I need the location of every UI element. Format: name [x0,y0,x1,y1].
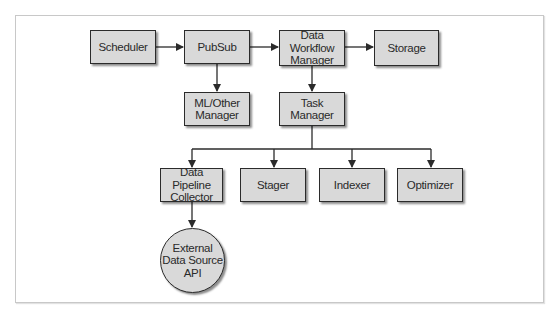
node-scheduler: Scheduler [90,30,156,64]
node-label: Optimizer [407,179,454,192]
node-ml-other-manager: ML/Other Manager [184,92,250,126]
node-label: Storage [387,42,425,55]
node-label: Task Manager [290,97,333,122]
node-pubsub: PubSub [184,30,250,64]
node-external-data-source-api: External Data Source API [160,228,225,293]
node-stager: Stager [240,168,306,202]
node-data-workflow-manager: Data Workflow Manager [279,30,345,66]
diagram-edges [0,0,555,324]
node-label: Data Workflow Manager [280,29,344,67]
node-label: Scheduler [98,41,147,54]
node-label: External Data Source API [162,242,223,280]
node-label: Indexer [334,179,370,192]
node-task-manager: Task Manager [279,92,345,126]
node-storage: Storage [374,30,439,66]
node-indexer: Indexer [319,168,385,202]
node-label: ML/Other Manager [194,97,240,122]
node-label: Stager [257,179,289,192]
node-optimizer: Optimizer [397,168,463,202]
node-data-pipeline-collector: Data Pipeline Collector [160,168,223,202]
node-label: Data Pipeline Collector [161,166,222,204]
node-label: PubSub [197,41,236,54]
